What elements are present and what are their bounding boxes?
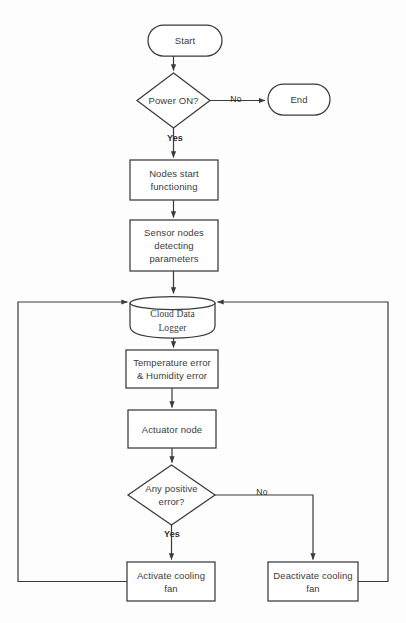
- edge-activate-loop-to-cloud: [18, 302, 128, 582]
- edge-deactivate-loop-to-cloud: [218, 302, 389, 582]
- edge-label-error-yes: Yes: [161, 529, 183, 539]
- node-start-shape: [148, 25, 222, 56]
- node-sensor-nodes-shape: [130, 220, 218, 271]
- edge-label-error-no: No: [252, 487, 272, 497]
- node-power-on-shape: [137, 73, 210, 128]
- node-deactivate-fan-shape: [268, 562, 358, 601]
- edge-label-power-yes: Yes: [164, 133, 186, 143]
- node-end-shape: [268, 84, 330, 115]
- edge-label-power-no: No: [226, 94, 246, 104]
- flowchart-graphics: [0, 0, 406, 623]
- flowchart-canvas: Start Power ON? End Nodes start function…: [0, 0, 406, 623]
- node-activate-fan-shape: [127, 562, 215, 601]
- node-any-positive-error-shape: [128, 465, 215, 525]
- node-nodes-start-shape: [130, 160, 218, 200]
- edge-decision-to-deactivate: [215, 495, 313, 560]
- node-actuator-shape: [128, 410, 216, 448]
- node-cloud-logger-top: [130, 297, 215, 310]
- node-errors-shape: [126, 350, 218, 388]
